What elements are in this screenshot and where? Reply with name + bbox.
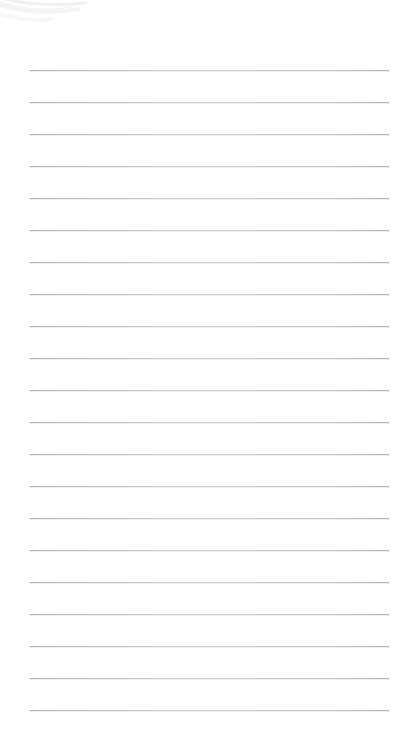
lined-note-page <box>0 0 420 741</box>
writing-area[interactable] <box>0 0 420 741</box>
